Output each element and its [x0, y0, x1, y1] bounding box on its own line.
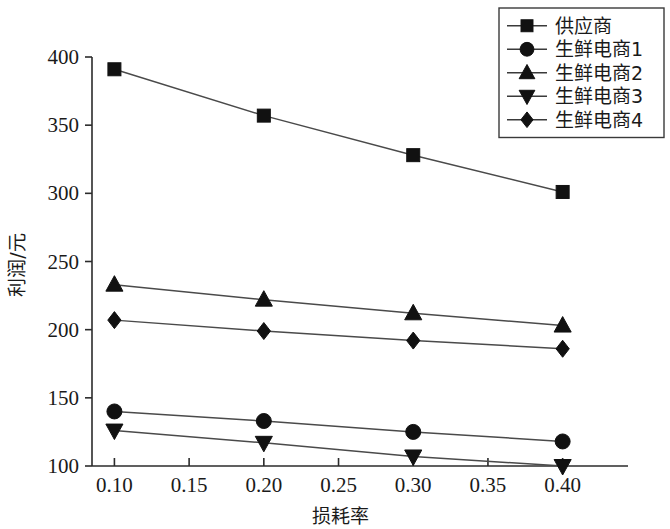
x-tick-label: 0.40	[544, 473, 581, 497]
data-point-circle	[256, 414, 271, 429]
legend-label: 生鲜电商3	[555, 85, 643, 107]
data-point-square	[407, 149, 420, 162]
legend-label: 供应商	[555, 15, 612, 37]
data-point-square	[257, 109, 270, 122]
chart-legend: 供应商生鲜电商1生鲜电商2生鲜电商3生鲜电商4	[499, 8, 664, 138]
x-tick-label: 0.15	[171, 473, 208, 497]
y-axis-title: 利润/元	[6, 233, 28, 296]
x-tick-label: 0.20	[245, 473, 282, 497]
y-tick-label: 100	[48, 454, 80, 478]
legend-label: 生鲜电商4	[555, 109, 643, 131]
x-tick-label: 0.10	[96, 473, 133, 497]
legend-label: 生鲜电商1	[555, 38, 643, 60]
x-tick-label: 0.25	[320, 473, 357, 497]
y-tick-label: 350	[48, 113, 80, 137]
legend-entry-5[interactable]: 生鲜电商4	[507, 109, 643, 131]
y-tick-label: 150	[48, 386, 80, 410]
x-tick-label: 0.35	[470, 473, 507, 497]
data-point-square	[108, 63, 121, 76]
data-point-square	[556, 185, 569, 198]
data-point-circle	[555, 434, 570, 449]
data-point-square	[521, 20, 533, 32]
line-chart: 100150200250300350400 0.100.150.200.250.…	[0, 0, 670, 529]
data-point-circle	[520, 42, 534, 56]
y-tick-label: 400	[48, 45, 80, 69]
x-tick-label: 0.30	[395, 473, 432, 497]
legend-label: 生鲜电商2	[555, 62, 643, 84]
x-axis-title: 损耗率	[312, 505, 369, 527]
data-point-circle	[406, 424, 421, 439]
y-tick-label: 300	[48, 181, 80, 205]
y-tick-label: 250	[48, 250, 80, 274]
chart-container: 100150200250300350400 0.100.150.200.250.…	[0, 0, 670, 529]
data-point-circle	[107, 404, 122, 419]
y-tick-label: 200	[48, 318, 80, 342]
